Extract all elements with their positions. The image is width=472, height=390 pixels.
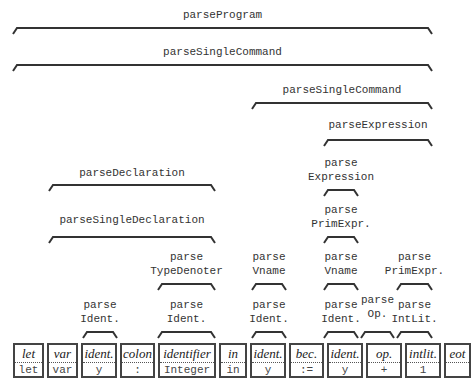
parser-label: parseIdent.: [167, 298, 207, 326]
parser-bracket-p5: [324, 190, 358, 196]
token-kind: in: [221, 345, 245, 363]
parser-label: parseVname: [252, 250, 285, 278]
token-spelling: [446, 363, 469, 378]
parser-label: parsePrimExpr.: [311, 203, 370, 231]
token-box: eot: [444, 343, 471, 378]
parser-bracket-p9: [252, 284, 286, 290]
token-spelling: in: [221, 363, 245, 378]
token-spelling: :=: [291, 363, 322, 378]
parser-bracket-p14: [252, 332, 286, 338]
token-kind: ident.: [252, 345, 284, 363]
parser-bracket-p16: [361, 332, 394, 338]
token-kind: ident.: [329, 345, 361, 363]
token-box: varvar: [47, 343, 78, 378]
token-box: ident.y: [81, 343, 117, 378]
token-spelling: 1: [407, 363, 439, 378]
token-box: letlet: [13, 343, 44, 378]
token-box: colon:: [120, 343, 155, 378]
token-kind: ident.: [83, 345, 115, 363]
parser-label: parseIdent.: [249, 298, 289, 326]
parser-label: parseSingleCommand: [163, 45, 282, 59]
token-kind: bec.: [291, 345, 322, 363]
parser-label: parseVname: [324, 250, 357, 278]
token-spelling: y: [83, 363, 115, 378]
parser-label: parsePrimExpr.: [385, 250, 444, 278]
token-spelling: y: [329, 363, 361, 378]
parser-bracket-p4: [49, 185, 215, 191]
parser-label: parseExpression: [308, 156, 374, 184]
token-kind: intlit.: [407, 345, 439, 363]
token-kind: let: [15, 345, 42, 363]
parser-bracket-p6: [49, 237, 215, 243]
parser-label: parseIdent.: [321, 298, 361, 326]
token-spelling: let: [15, 363, 42, 378]
token-kind: op.: [368, 345, 400, 363]
parser-label: parseIdent.: [80, 298, 120, 326]
token-box: identifierInteger: [158, 343, 216, 378]
parser-label: parseTypeDenoter: [150, 250, 223, 278]
token-kind: identifier: [160, 345, 214, 363]
parser-bracket-p3: [324, 140, 432, 146]
parser-bracket-p7: [324, 237, 358, 243]
token-kind: var: [49, 345, 76, 363]
parser-label: parseIntLit.: [391, 298, 437, 326]
parser-bracket-p13: [158, 332, 215, 338]
token-box: intlit.1: [405, 343, 441, 378]
parser-label: parseOp.: [361, 293, 394, 321]
parser-label: parseSingleDeclaration: [59, 213, 204, 227]
parser-bracket-p2: [252, 103, 432, 109]
token-kind: colon: [122, 345, 153, 363]
parser-bracket-p1: [13, 65, 432, 71]
token-kind: eot: [446, 345, 469, 363]
token-box: ident.y: [327, 343, 363, 378]
token-box: inin: [219, 343, 247, 378]
parser-bracket-p12: [83, 332, 117, 338]
parser-bracket-p17: [397, 332, 432, 338]
token-spelling: var: [49, 363, 76, 378]
token-box: op.+: [366, 343, 402, 378]
token-box: bec.:=: [289, 343, 324, 378]
token-spelling: +: [368, 363, 400, 378]
token-box: ident.y: [250, 343, 286, 378]
parser-bracket-p0: [13, 28, 432, 34]
parser-label: parseExpression: [328, 118, 427, 132]
parser-bracket-p11: [397, 284, 432, 290]
parser-bracket-p8: [158, 284, 215, 290]
parser-bracket-p10: [324, 284, 358, 290]
parser-bracket-p15: [324, 332, 358, 338]
token-spelling: :: [122, 363, 153, 378]
parser-label: parseProgram: [183, 8, 262, 22]
parser-label: parseDeclaration: [79, 166, 185, 180]
parser-label: parseSingleCommand: [283, 83, 402, 97]
token-spelling: Integer: [160, 363, 214, 378]
token-spelling: y: [252, 363, 284, 378]
